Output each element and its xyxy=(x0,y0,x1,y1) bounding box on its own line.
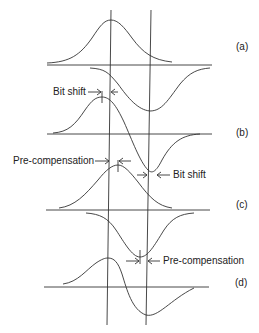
annotation-bit-shift-top: Bit shift xyxy=(53,87,86,97)
annotation-precomp-right: Pre-compensation xyxy=(163,256,244,266)
arrow-precomp-right xyxy=(126,258,160,264)
annotation-bit-shift-right: Bit shift xyxy=(173,170,206,180)
panel-label-c: (c) xyxy=(236,200,248,210)
panel-label-b: (b) xyxy=(236,128,248,138)
panel-label-a: (a) xyxy=(236,42,248,52)
timing-line-2 xyxy=(146,10,151,325)
arrow-bit-shift-top xyxy=(88,89,118,95)
pulse-c xyxy=(59,165,172,208)
waveform-diagram xyxy=(0,0,259,333)
pulse-a xyxy=(47,20,172,63)
arrow-bit-shift-right xyxy=(137,172,170,178)
arrow-precomp-left xyxy=(95,158,131,164)
annotation-precomp-left: Pre-compensation xyxy=(13,156,94,166)
panel-label-d: (d) xyxy=(235,278,247,288)
